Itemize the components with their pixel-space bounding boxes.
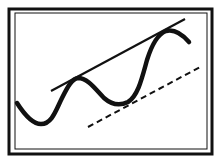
trend-diagram [0, 0, 220, 163]
price-wave [17, 31, 189, 124]
outer-frame [9, 9, 212, 154]
resistance-trendline [51, 19, 185, 91]
